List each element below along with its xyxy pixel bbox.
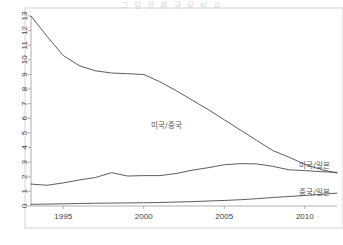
- x-tick-label: 2010: [296, 212, 314, 221]
- y-tick-label: 2: [20, 174, 29, 179]
- series-line-미국/중국: [31, 16, 337, 173]
- y-tick-label: 12: [20, 26, 29, 35]
- series-lines: [31, 16, 337, 204]
- y-tick-label: 11: [20, 41, 29, 50]
- chart-figure: 그 림 경 제 규 모 비 교 012345678910111213 19952…: [0, 0, 343, 245]
- plot-panel-border: [25, 8, 343, 228]
- series-label-미국/일본: 미국/일본: [299, 161, 330, 170]
- x-axis: 1995200020052010: [31, 206, 337, 221]
- x-tick-label: 1995: [54, 212, 72, 221]
- x-tick-label: 2005: [215, 212, 233, 221]
- series-line-미국/일본: [31, 164, 337, 186]
- x-tick-label: 2000: [135, 212, 153, 221]
- series-inline-labels: 미국/중국미국/일본중국/일본: [151, 121, 330, 198]
- y-tick-label: 10: [20, 55, 29, 64]
- y-tick-label: 6: [20, 116, 29, 121]
- y-tick-label: 5: [20, 130, 29, 135]
- y-tick-label: 7: [20, 101, 29, 106]
- y-tick-label: 13: [20, 11, 29, 20]
- y-tick-label: 8: [20, 86, 29, 91]
- y-tick-label: 9: [20, 72, 29, 77]
- y-tick-label: 0: [20, 203, 29, 208]
- y-tick-label: 1: [20, 189, 29, 194]
- series-label-미국/중국: 미국/중국: [151, 121, 182, 130]
- series-label-중국/일본: 중국/일본: [299, 188, 330, 197]
- line-chart-plot: 012345678910111213 1995200020052010 미국/중…: [0, 0, 343, 245]
- y-tick-label: 4: [20, 145, 29, 150]
- y-tick-label: 3: [20, 159, 29, 164]
- series-line-중국/일본: [31, 193, 337, 204]
